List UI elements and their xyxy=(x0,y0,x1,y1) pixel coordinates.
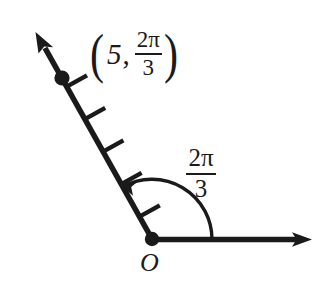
angle-fraction: 2π 3 xyxy=(135,28,162,81)
point-coordinate-label: ( 5 , 2π 3 ) xyxy=(88,28,180,81)
coordinate-comma: , xyxy=(122,40,134,69)
angle-measure-fraction: 2π 3 xyxy=(186,145,216,202)
angle-denominator: 3 xyxy=(141,55,157,80)
open-paren: ( xyxy=(90,31,104,77)
plotted-point-dot xyxy=(54,70,69,85)
radius-value: 5 xyxy=(106,40,123,69)
angle-measure-label: 2π 3 xyxy=(186,145,216,202)
angle-measure-numerator: 2π xyxy=(186,145,215,173)
origin-dot xyxy=(145,232,159,246)
origin-label: O xyxy=(140,248,159,278)
close-paren: ) xyxy=(164,31,178,77)
angle-measure-denominator: 3 xyxy=(193,175,210,203)
angle-numerator: 2π xyxy=(135,28,162,53)
